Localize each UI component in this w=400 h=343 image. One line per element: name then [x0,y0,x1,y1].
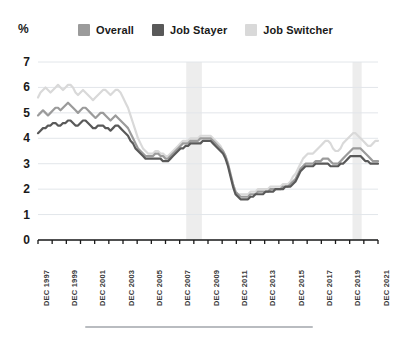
x-axis-tick-label: DEC 2013 [268,270,277,306]
y-axis-tick-label: 2 [8,183,30,195]
x-axis-tick-label: DEC 2001 [98,270,107,306]
y-axis-tick-label: 4 [8,132,30,144]
y-axis-tick-label: 7 [8,56,30,68]
series-line-overall [38,103,378,197]
x-axis-tick-label: DEC 2015 [297,270,306,306]
y-axis-tick-label: 0 [8,234,30,246]
x-axis-tick-label: DEC 2019 [353,270,362,306]
x-axis-tick-label: DEC 2017 [325,270,334,306]
x-axis-tick-label: DEC 2021 [382,270,391,306]
x-axis-tick-label: DEC 1999 [70,270,79,306]
x-axis-tick-label: DEC 2007 [183,270,192,306]
x-axis-tick-label: DEC 2009 [212,270,221,306]
y-axis-tick-label: 5 [8,107,30,119]
series-line-job-switcher [38,85,378,194]
recession-band [353,62,362,240]
x-axis-tick-label: DEC 2011 [240,270,249,306]
plot-svg [0,0,400,343]
plot-area: 76543210 DEC 1997DEC 1999DEC 2001DEC 200… [0,0,400,343]
x-axis-tick-label: DEC 2005 [155,270,164,306]
wage-growth-chart: % Overall Job Stayer Job Switcher 765432… [0,0,400,343]
recession-band [186,62,202,240]
y-axis-tick-label: 3 [8,158,30,170]
y-axis-tick-label: 1 [8,209,30,221]
y-axis-tick-label: 6 [8,81,30,93]
x-axis-tick-label: DEC 1997 [42,270,51,306]
x-axis-tick-label: DEC 2003 [127,270,136,306]
footer-divider-rule [85,326,313,328]
series-line-job-stayer [38,120,378,199]
